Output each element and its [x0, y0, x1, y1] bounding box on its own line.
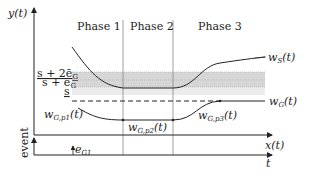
phase-diagram: y(t) Phase 1 Phase 2 Phase 3 s + 2ēG s +… [0, 0, 310, 174]
wg-point-p2-start [122, 119, 125, 122]
wg-point-p3-end [219, 100, 222, 103]
band-label-lower: s [64, 85, 70, 98]
phase-3-label: Phase 3 [198, 20, 242, 33]
wg-label: wG(t) [269, 95, 297, 109]
wg-p2-label: wG,p2(t) [128, 121, 167, 135]
phase-1-label: Phase 1 [77, 20, 121, 33]
wg-p3-label: wG,p3(t) [198, 109, 237, 123]
y-axis-label: y(t) [7, 7, 27, 20]
event-axis-label: event [18, 127, 31, 158]
event-marker-label: eG1 [75, 143, 92, 157]
phase-2-label: Phase 2 [130, 20, 174, 33]
t-axis-label: t [266, 157, 271, 170]
wg-p1-label: wG,p1(t) [44, 108, 83, 122]
wg-point-p3-start [172, 119, 175, 122]
ws-label: wS(t) [268, 51, 295, 65]
x-axis-label: x(t) [265, 139, 284, 152]
